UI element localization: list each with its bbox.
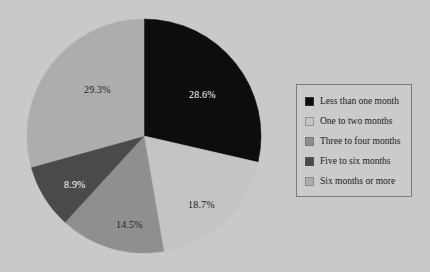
pie-slice-label-one-to-two-months: 18.7% (188, 199, 215, 210)
pie-slice-label-six-months-or-more: 29.3% (84, 84, 111, 95)
pie-slice-group (27, 19, 261, 253)
legend-item-three-to-four-months[interactable]: Three to four months (305, 132, 411, 151)
legend-swatch-icon (305, 157, 314, 166)
legend-item-less-than-one-month[interactable]: Less than one month (305, 92, 411, 111)
pie-slice-label-three-to-four-months: 14.5% (116, 219, 143, 230)
legend-item-one-to-two-months[interactable]: One to two months (305, 112, 411, 131)
legend-item-label: Six months or more (320, 177, 395, 187)
legend-swatch-icon (305, 177, 314, 186)
legend-item-label: Five to six months (320, 157, 390, 167)
legend-item-label: Three to four months (320, 137, 400, 147)
legend-item-six-months-or-more[interactable]: Six months or more (305, 172, 411, 191)
pie-chart: 28.6%18.7%14.5%8.9%29.3% (26, 18, 262, 254)
legend-swatch-icon (305, 137, 314, 146)
pie-chart-svg: 28.6%18.7%14.5%8.9%29.3% (26, 18, 262, 254)
chart-canvas: 28.6%18.7%14.5%8.9%29.3% Less than one m… (0, 0, 430, 272)
pie-slice-label-five-to-six-months: 8.9% (64, 179, 86, 190)
legend-item-label: One to two months (320, 117, 393, 127)
legend-item-five-to-six-months[interactable]: Five to six months (305, 152, 411, 171)
legend-swatch-icon (305, 97, 314, 106)
legend-swatch-icon (305, 117, 314, 126)
pie-slice-label-less-than-one-month: 28.6% (189, 89, 216, 100)
legend-item-label: Less than one month (320, 97, 399, 107)
legend: Less than one month One to two months Th… (296, 84, 412, 197)
